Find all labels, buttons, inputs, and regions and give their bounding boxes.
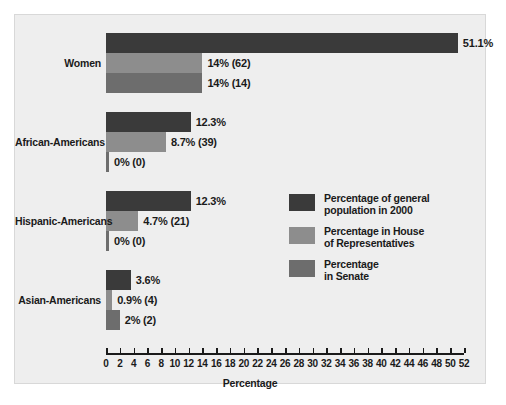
x-axis-tick	[147, 348, 149, 353]
x-axis-tick	[436, 348, 438, 353]
x-axis-tick	[285, 348, 287, 353]
bar-value-label: 14% (14)	[207, 73, 250, 93]
bar-value-label: 0% (0)	[114, 152, 145, 172]
x-axis-tick	[120, 348, 122, 353]
legend-label: Percentage in Senate	[324, 259, 379, 282]
bar-value-label: 0% (0)	[114, 231, 145, 251]
bar-value-label: 12.3%	[196, 191, 226, 211]
x-axis-tick	[106, 348, 108, 353]
legend-swatch	[289, 260, 315, 277]
x-axis-tick	[464, 348, 466, 353]
bar-value-label: 4.7% (21)	[143, 211, 189, 231]
chart-frame: 51.1%14% (62)14% (14)Women12.3%8.7% (39)…	[14, 14, 486, 384]
bar-hispanic-americans-series-1	[106, 191, 191, 211]
x-axis-tick	[354, 348, 356, 353]
chart-legend: Percentage of general population in 2000…	[289, 193, 469, 292]
x-axis-tick	[257, 348, 259, 353]
category-label-asian-americans: Asian-Americans	[15, 294, 101, 306]
x-axis-tick	[381, 348, 383, 353]
category-label-women: Women	[15, 57, 101, 69]
bar-women-series-3	[106, 73, 202, 93]
x-axis-title: Percentage	[15, 377, 485, 389]
legend-label: Percentage of general population in 2000	[324, 193, 430, 216]
bar-value-label: 8.7% (39)	[171, 132, 217, 152]
bar-african-americans-series-2	[106, 132, 166, 152]
legend-swatch	[289, 194, 315, 211]
category-label-hispanic-americans: Hispanic-Americans	[15, 215, 101, 227]
x-axis-tick	[244, 348, 246, 353]
legend-swatch	[289, 227, 315, 244]
legend-item-3: Percentage in Senate	[289, 259, 469, 282]
x-axis-tick	[395, 348, 397, 353]
x-axis-tick	[423, 348, 425, 353]
x-axis-tick	[175, 348, 177, 353]
bar-african-americans-series-3	[106, 152, 109, 172]
bar-asian-americans-series-1	[106, 270, 131, 290]
bar-value-label: 12.3%	[196, 112, 226, 132]
bar-hispanic-americans-series-3	[106, 231, 109, 251]
x-axis-tick	[216, 348, 218, 353]
bar-african-americans-series-1	[106, 112, 191, 132]
x-axis-tick	[299, 348, 301, 353]
x-axis-tick	[271, 348, 273, 353]
legend-label: Percentage in House of Representatives	[324, 226, 424, 249]
x-axis-tick-label: 52	[454, 358, 474, 369]
bar-value-label: 2% (2)	[125, 310, 156, 330]
x-axis-tick	[326, 348, 328, 353]
legend-item-2: Percentage in House of Representatives	[289, 226, 469, 249]
bar-value-label: 14% (62)	[207, 53, 250, 73]
bar-value-label: 3.6%	[136, 270, 160, 290]
bar-value-label: 51.1%	[463, 33, 493, 53]
x-axis-tick	[161, 348, 163, 353]
x-axis-tick	[340, 348, 342, 353]
category-label-african-americans: African-Americans	[15, 136, 101, 148]
x-axis-tick	[230, 348, 232, 353]
bar-asian-americans-series-2	[106, 290, 112, 310]
bar-asian-americans-series-3	[106, 310, 120, 330]
x-axis-tick	[409, 348, 411, 353]
x-axis-tick	[368, 348, 370, 353]
bar-women-series-1	[106, 33, 458, 53]
x-axis-tick	[450, 348, 452, 353]
bar-women-series-2	[106, 53, 202, 73]
x-axis-tick	[313, 348, 315, 353]
x-axis-line	[106, 353, 464, 355]
x-axis-tick	[202, 348, 204, 353]
x-axis-tick	[189, 348, 191, 353]
x-axis-tick	[134, 348, 136, 353]
legend-item-1: Percentage of general population in 2000	[289, 193, 469, 216]
bar-value-label: 0.9% (4)	[117, 290, 157, 310]
